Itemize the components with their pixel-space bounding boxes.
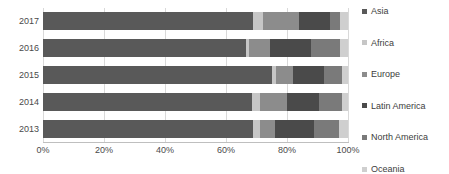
plot-area — [43, 8, 348, 142]
bar-row — [43, 66, 348, 84]
bar-segment — [263, 12, 300, 30]
bar-segment — [43, 12, 253, 30]
bar-segment — [275, 120, 315, 138]
bar-row — [43, 39, 348, 57]
y-axis-category-labels: 20172016201520142013 — [0, 8, 39, 142]
legend-label: Oceania — [371, 164, 405, 174]
legend-label: Asia — [371, 6, 389, 16]
bar-segment — [311, 39, 340, 57]
bar-segment — [339, 120, 348, 138]
bar-segment — [43, 93, 252, 111]
x-axis-line — [43, 142, 349, 143]
bar-segment — [260, 120, 275, 138]
legend-swatch-icon — [362, 72, 367, 77]
bar-segment — [330, 12, 341, 30]
bar-segment — [43, 120, 253, 138]
x-tick-label-100: 100% — [336, 145, 359, 155]
bar-segment — [342, 66, 348, 84]
y-axis-label-2016: 2016 — [3, 39, 39, 57]
legend-label: Europe — [371, 69, 400, 79]
legend-item-africa[interactable]: Africa — [362, 38, 394, 48]
bar-segment — [340, 39, 348, 57]
x-tick-label-0: 0% — [36, 145, 49, 155]
x-tick-label-20: 20% — [95, 145, 113, 155]
y-axis-label-2015: 2015 — [3, 66, 39, 84]
bar-segment — [252, 93, 260, 111]
bar-segment — [319, 93, 342, 111]
legend-item-north-america[interactable]: North America — [362, 132, 428, 142]
bar-segment — [314, 120, 338, 138]
x-tick-label-40: 40% — [156, 145, 174, 155]
legend-label: Latin America — [371, 101, 426, 111]
legend-swatch-icon — [362, 103, 367, 108]
bar-segment — [287, 93, 319, 111]
bar-segment — [43, 66, 272, 84]
bar-segment — [340, 12, 348, 30]
bar-segment — [260, 93, 287, 111]
legend-item-oceania[interactable]: Oceania — [362, 164, 405, 174]
legend-item-asia[interactable]: Asia — [362, 6, 389, 16]
bar-segment — [249, 39, 270, 57]
bar-segment — [276, 66, 293, 84]
x-axis-tick-labels: 0%20%40%60%80%100% — [43, 145, 348, 161]
bar-segment — [299, 12, 330, 30]
bar-row — [43, 120, 348, 138]
bar-row — [43, 12, 348, 30]
bar-segment — [253, 12, 262, 30]
y-axis-label-2014: 2014 — [3, 93, 39, 111]
legend-label: Africa — [371, 38, 394, 48]
bar-segment — [342, 93, 348, 111]
y-axis-label-2013: 2013 — [3, 120, 39, 138]
y-axis-label-2017: 2017 — [3, 12, 39, 30]
x-tick-label-60: 60% — [217, 145, 235, 155]
gridline-100 — [348, 8, 349, 142]
bar-row — [43, 93, 348, 111]
x-tick-label-80: 80% — [278, 145, 296, 155]
legend-swatch-icon — [362, 9, 367, 14]
legend-swatch-icon — [362, 135, 367, 140]
legend-label: North America — [371, 132, 428, 142]
bar-segment — [43, 39, 246, 57]
legend-item-europe[interactable]: Europe — [362, 69, 400, 79]
legend-swatch-icon — [362, 167, 367, 172]
legend-swatch-icon — [362, 40, 367, 45]
bar-segment — [270, 39, 311, 57]
legend-item-latin-america[interactable]: Latin America — [362, 101, 426, 111]
bar-segment — [293, 66, 324, 84]
bar-segment — [324, 66, 342, 84]
stacked-bar-chart: 20172016201520142013 0%20%40%60%80%100% … — [0, 0, 449, 174]
chart-legend: AsiaAfricaEuropeLatin AmericaNorth Ameri… — [362, 6, 449, 168]
